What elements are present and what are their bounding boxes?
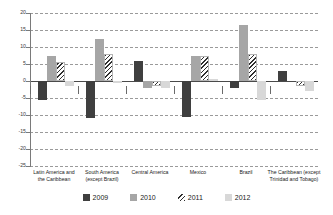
bar	[191, 56, 200, 82]
bar	[56, 62, 65, 81]
legend-swatch-icon	[83, 194, 90, 201]
bar	[86, 81, 95, 118]
bar-group	[174, 13, 222, 166]
legend-item[interactable]: 2011	[178, 194, 203, 201]
y-axis-tick-label: 15	[20, 27, 26, 32]
bar-group	[126, 13, 174, 166]
bar-group	[222, 13, 270, 166]
y-axis-tick-label: 0	[23, 78, 26, 83]
bar	[134, 61, 143, 81]
group-separator-tick	[270, 86, 271, 94]
legend-label: 2011	[188, 194, 203, 201]
y-axis-tick-label: 20	[20, 10, 26, 15]
legend-swatch-icon	[130, 194, 137, 201]
bar	[200, 56, 209, 82]
bar	[161, 81, 170, 88]
bar	[182, 81, 191, 117]
category-label-line: (except Brazil)	[67, 176, 136, 183]
bar	[257, 81, 266, 100]
bar-group	[270, 13, 318, 166]
y-axis-tick-label: -25	[19, 163, 27, 168]
bar-group	[30, 13, 78, 166]
y-axis-tick-label: -5	[21, 95, 26, 100]
bar	[230, 81, 239, 88]
bar	[239, 25, 248, 81]
bar	[38, 81, 47, 100]
legend-label: 2009	[93, 194, 109, 201]
legend-item[interactable]: 2009	[83, 194, 109, 201]
bar	[143, 81, 152, 88]
bar	[152, 81, 161, 86]
bar	[248, 54, 257, 81]
plot-area: 20151050-5-10-15-20-25	[30, 13, 318, 166]
legend-item[interactable]: 2012	[225, 194, 251, 201]
y-axis-tick	[26, 166, 31, 167]
group-separator-tick	[30, 86, 31, 94]
legend-swatch-icon	[178, 194, 185, 201]
bar-groups	[30, 13, 318, 166]
x-axis-category-labels: Latin America andthe CaribbeanSouth Amer…	[30, 169, 318, 191]
x-axis-category-label: The Caribbean (exceptTrinidad and Tobago…	[259, 169, 328, 182]
y-axis-tick-label: -15	[19, 129, 27, 134]
legend-label: 2010	[140, 194, 156, 201]
bar	[278, 71, 287, 81]
bar	[113, 81, 122, 83]
chart-legend: 2009201020112012	[0, 194, 333, 201]
group-separator-tick	[78, 86, 79, 94]
y-axis-tick-label: 5	[23, 61, 26, 66]
legend-swatch-icon	[225, 194, 232, 201]
group-separator-tick	[222, 86, 223, 94]
bar	[47, 56, 56, 82]
bar	[65, 81, 74, 86]
gridline	[30, 166, 318, 167]
bar-chart: 20151050-5-10-15-20-25 Latin America and…	[0, 0, 333, 215]
legend-label: 2012	[235, 194, 251, 201]
bar	[296, 81, 305, 86]
bar	[209, 79, 218, 81]
bar	[95, 39, 104, 82]
category-label-line: Trinidad and Tobago)	[259, 176, 328, 183]
group-separator-tick	[174, 86, 175, 94]
group-separator-tick	[126, 86, 127, 94]
bar-group	[78, 13, 126, 166]
bar	[305, 81, 314, 91]
bar	[104, 54, 113, 81]
y-axis-tick-label: -20	[19, 146, 27, 151]
legend-item[interactable]: 2010	[130, 194, 156, 201]
category-label-line: The Caribbean (except	[259, 169, 328, 176]
y-axis-tick-label: 10	[20, 44, 26, 49]
y-axis-tick-label: -10	[19, 112, 27, 117]
